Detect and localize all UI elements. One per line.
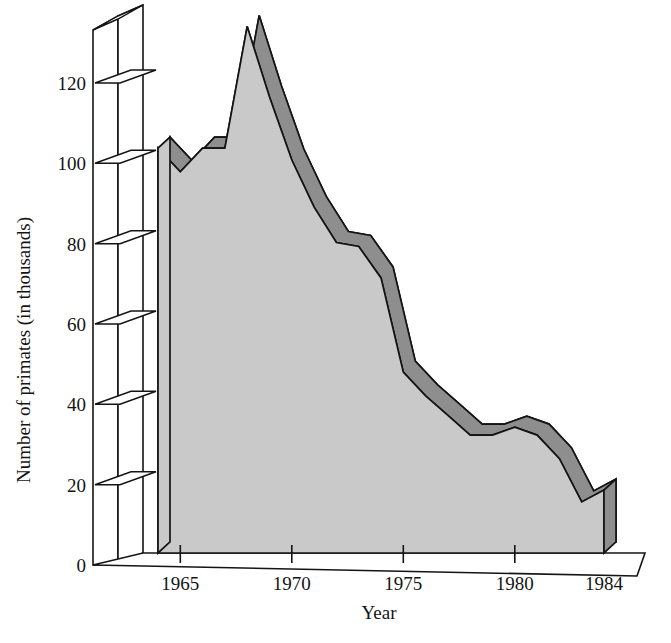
y-tick-label: 80 [67,234,86,255]
y-tick-label: 60 [67,314,86,335]
x-tick-label: 1980 [496,573,534,594]
x-tick-label: 1984 [585,573,624,594]
y-axis-title: Number of primates (in thousands) [13,217,35,483]
y-tick-label: 20 [67,475,86,496]
x-tick-label: 1965 [161,573,199,594]
x-tick-label: 1970 [273,573,311,594]
y-tick-label: 40 [67,394,86,415]
x-tick-label: 1975 [384,573,422,594]
y-tick-label: 0 [77,555,87,576]
y-tick-label: 100 [58,153,87,174]
x-axis-title: Year [361,602,397,623]
chart-canvas: 120100806040200 19651970197519801984 Yea… [0,0,671,643]
y-tick-label: 120 [58,73,87,94]
area-right-cap [604,479,616,553]
area-left-cap [158,137,170,553]
primates-area-chart: 120100806040200 19651970197519801984 Yea… [0,0,671,643]
